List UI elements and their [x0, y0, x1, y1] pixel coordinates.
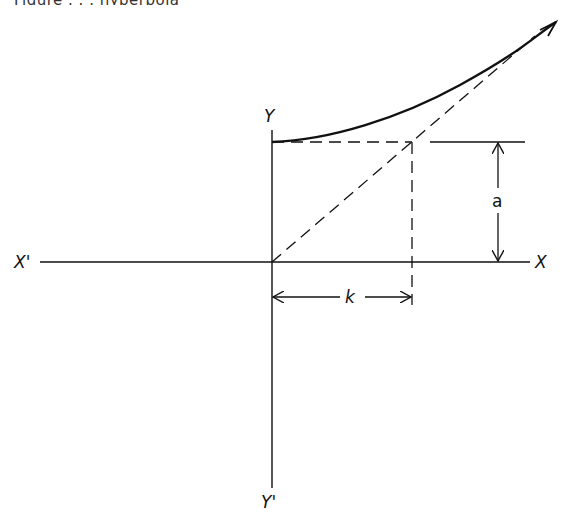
label-a: a: [492, 191, 502, 211]
label-x: X: [534, 252, 547, 272]
label-y-prime: Y': [261, 492, 276, 512]
hyperbola-curve: [272, 22, 556, 142]
label-x-prime: X': [13, 252, 30, 272]
label-k: k: [345, 287, 356, 307]
diagonal-dashed-asymptote: [272, 36, 535, 262]
diagram-canvas: a k Y Y' X X': [0, 0, 564, 513]
label-y: Y: [264, 106, 276, 126]
